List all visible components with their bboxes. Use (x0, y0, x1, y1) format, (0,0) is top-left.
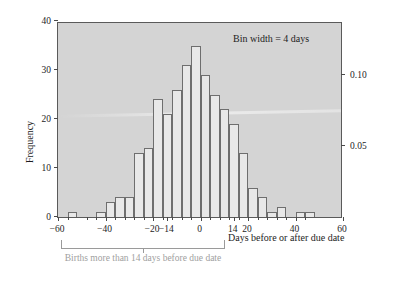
y-tick-label-left: 10 (29, 164, 51, 174)
y-tick-left (54, 20, 58, 21)
histogram-bar (277, 207, 287, 217)
x-tick-label: −40 (90, 225, 120, 235)
x-bin-edge-tick (258, 217, 259, 220)
x-tick-label: 0 (185, 225, 215, 235)
histogram-bar (201, 75, 211, 217)
histogram-bar (267, 212, 277, 217)
x-bin-edge-tick (277, 217, 278, 220)
x-bin-edge-tick (163, 217, 164, 220)
x-bin-edge-tick (153, 217, 154, 220)
histogram-bar (229, 124, 239, 217)
x-tick (234, 217, 235, 221)
histogram-bar (96, 212, 106, 217)
x-bin-edge-tick (296, 217, 297, 220)
plot-area: Bin width = 4 days (57, 22, 342, 218)
x-bin-edge-tick (106, 217, 107, 220)
x-bin-edge-tick (248, 217, 249, 220)
y-tick-label-left: 20 (29, 115, 51, 125)
y-tick-label-left: 40 (29, 17, 51, 27)
histogram-bar (258, 197, 268, 217)
histogram-bars (58, 23, 341, 217)
x-bin-edge-tick (305, 217, 306, 220)
histogram-bar (163, 114, 173, 217)
histogram-bar (220, 109, 230, 217)
y-tick-left (54, 167, 58, 168)
x-bin-edge-tick (210, 217, 211, 220)
y-tick-right (341, 145, 345, 146)
histogram-bar (210, 95, 220, 218)
x-tick (167, 217, 168, 221)
y-axis-title-frequency: Frequency (24, 121, 35, 163)
histogram-bar (68, 212, 78, 217)
x-bin-edge-tick (201, 217, 202, 220)
x-bin-edge-tick (286, 217, 287, 220)
x-bin-edge-tick (182, 217, 183, 220)
histogram-bar (248, 188, 258, 217)
x-bin-edge-tick (134, 217, 135, 220)
x-bin-edge-tick (220, 217, 221, 220)
y-tick-label-left: 30 (29, 66, 51, 76)
x-bin-edge-tick (87, 217, 88, 220)
x-bin-edge-tick (96, 217, 97, 220)
y-tick-left (54, 69, 58, 70)
histogram-bar (115, 197, 125, 217)
left-tail-bracket (61, 240, 225, 249)
x-bin-edge-tick (267, 217, 268, 220)
left-tail-bracket-caption: Births more than 14 days before due date (57, 253, 229, 265)
histogram-bar (191, 46, 201, 218)
x-bin-edge-tick (239, 217, 240, 220)
histogram-bar (172, 90, 182, 217)
x-tick (58, 217, 59, 221)
histogram-bar (296, 212, 306, 217)
x-bin-edge-tick (172, 217, 173, 220)
x-tick-label: −14 (151, 225, 181, 235)
histogram-bar (106, 202, 116, 217)
histogram-bar (153, 99, 163, 217)
histogram-bar (134, 153, 144, 217)
x-bin-edge-tick (144, 217, 145, 220)
histogram-bar (239, 153, 249, 217)
y-tick-left (54, 118, 58, 119)
histogram-bar (144, 148, 154, 217)
x-axis-title: Days before or after due date (228, 232, 344, 243)
histogram-bar (125, 197, 135, 217)
y-tick-label-right: 0.05 (350, 142, 367, 152)
x-bin-edge-tick (68, 217, 69, 220)
y-tick-label-left: 0 (29, 213, 51, 223)
x-bin-edge-tick (229, 217, 230, 220)
histogram-bar (182, 65, 192, 217)
x-tick-label: −60 (42, 225, 72, 235)
y-tick-right (341, 74, 345, 75)
y-tick-label-right: 0.10 (350, 71, 367, 81)
x-bin-edge-tick (115, 217, 116, 220)
x-bin-edge-tick (125, 217, 126, 220)
x-tick (343, 217, 344, 221)
histogram-figure: Frequency Relative frequency Bin width =… (0, 0, 397, 284)
histogram-bar (305, 212, 315, 217)
x-bin-edge-tick (191, 217, 192, 220)
